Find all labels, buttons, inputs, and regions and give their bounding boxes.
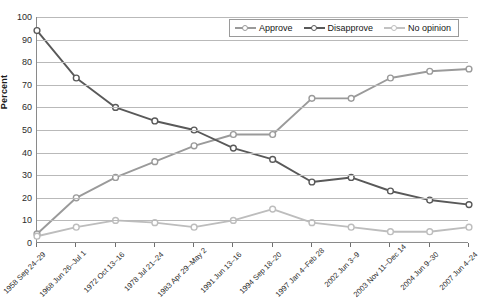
- gridline: [37, 153, 468, 154]
- data-point[interactable]: [466, 224, 472, 230]
- data-point[interactable]: [427, 68, 433, 74]
- x-axis-tick-labels: 1958 Sep 24–291968 Jun 26–Jul 11972 Oct …: [0, 248, 475, 305]
- gridline: [37, 40, 468, 41]
- legend-swatch-no-opinion: [384, 24, 405, 32]
- data-point[interactable]: [309, 95, 315, 101]
- x-axis-tick: [311, 243, 312, 247]
- data-point[interactable]: [152, 118, 158, 124]
- y-axis-tick-40: 40: [6, 148, 32, 158]
- x-axis-tick: [232, 243, 233, 247]
- data-point[interactable]: [466, 202, 472, 208]
- data-point[interactable]: [230, 145, 236, 151]
- legend-label-approve: Approve: [259, 23, 293, 33]
- y-axis-tick-100: 100: [6, 12, 32, 22]
- x-axis-tick: [75, 243, 76, 247]
- data-point[interactable]: [309, 179, 315, 185]
- data-point[interactable]: [230, 132, 236, 138]
- legend-label-disapprove: Disapprove: [328, 23, 374, 33]
- data-point[interactable]: [427, 229, 433, 235]
- x-axis-tick: [468, 243, 469, 247]
- legend-item-approve[interactable]: Approve: [235, 23, 293, 33]
- series-line-approve: [37, 69, 469, 234]
- x-axis-tick: [429, 243, 430, 247]
- x-axis-tick: [389, 243, 390, 247]
- plot-area: [36, 17, 468, 243]
- legend-swatch-approve: [235, 24, 256, 32]
- data-point[interactable]: [191, 224, 197, 230]
- gridline: [37, 198, 468, 199]
- data-point[interactable]: [388, 229, 394, 235]
- legend-item-disapprove[interactable]: Disapprove: [304, 23, 374, 33]
- data-point[interactable]: [348, 224, 354, 230]
- data-point[interactable]: [270, 206, 276, 212]
- data-point[interactable]: [73, 224, 79, 230]
- x-axis-tick: [193, 243, 194, 247]
- series-line-disapprove: [37, 31, 469, 205]
- legend-swatch-disapprove: [304, 24, 325, 32]
- y-axis-tick-20: 20: [6, 193, 32, 203]
- chart-legend: Approve Disapprove No opinion: [229, 19, 459, 37]
- gridline: [37, 62, 468, 63]
- gridline: [37, 17, 468, 18]
- y-axis-tick-80: 80: [6, 57, 32, 67]
- legend-item-no-opinion[interactable]: No opinion: [384, 23, 451, 33]
- data-point[interactable]: [388, 75, 394, 81]
- x-axis-tick: [272, 243, 273, 247]
- x-axis-tick: [36, 243, 37, 247]
- data-point[interactable]: [191, 143, 197, 149]
- x-axis-tick: [154, 243, 155, 247]
- y-axis-tick-50: 50: [6, 125, 32, 135]
- x-axis-tick: [115, 243, 116, 247]
- gridline: [37, 175, 468, 176]
- data-point[interactable]: [34, 28, 40, 34]
- data-point[interactable]: [152, 159, 158, 165]
- data-point[interactable]: [73, 75, 79, 81]
- y-axis-tick-60: 60: [6, 102, 32, 112]
- data-point[interactable]: [348, 95, 354, 101]
- gridline: [37, 107, 468, 108]
- series-line-no-opinion: [37, 209, 469, 236]
- y-axis-tick-30: 30: [6, 170, 32, 180]
- data-point[interactable]: [34, 233, 40, 239]
- data-point[interactable]: [466, 66, 472, 72]
- gridline: [37, 130, 468, 131]
- y-axis-tick-70: 70: [6, 80, 32, 90]
- data-point[interactable]: [270, 132, 276, 138]
- y-axis-tick-10: 10: [6, 215, 32, 225]
- y-axis-tick-90: 90: [6, 35, 32, 45]
- gridline: [37, 220, 468, 221]
- legend-label-no-opinion: No opinion: [408, 23, 451, 33]
- data-point[interactable]: [270, 156, 276, 162]
- gridline: [37, 85, 468, 86]
- x-axis-tick: [350, 243, 351, 247]
- y-axis-tick-0: 0: [6, 238, 32, 248]
- data-point[interactable]: [388, 188, 394, 194]
